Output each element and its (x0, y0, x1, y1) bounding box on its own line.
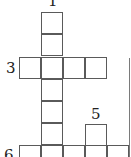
clue-number-5: 5 (91, 107, 101, 122)
cell-6-2[interactable] (41, 145, 63, 157)
cell-3-1[interactable] (19, 57, 41, 79)
cell-1-1[interactable] (41, 12, 63, 34)
cell-6-1[interactable] (19, 145, 41, 157)
cell-3-3[interactable] (63, 57, 85, 79)
clue-number-1: 1 (48, 0, 58, 9)
clue-number-3: 3 (6, 61, 16, 76)
cell-6-5[interactable] (107, 145, 129, 157)
cell-1-2[interactable] (41, 34, 63, 56)
cell-6-4[interactable] (85, 145, 107, 157)
cell-1-4[interactable] (41, 123, 63, 145)
cell-1-5[interactable] (41, 79, 63, 101)
grid-edge-line (129, 58, 130, 157)
cell-1-3[interactable] (41, 101, 63, 123)
cell-3-4[interactable] (85, 57, 107, 79)
cell-5-1[interactable] (85, 124, 107, 146)
cell-3-2[interactable] (41, 57, 63, 79)
cell-6-3[interactable] (63, 145, 85, 157)
clue-number-6: 6 (4, 148, 14, 157)
